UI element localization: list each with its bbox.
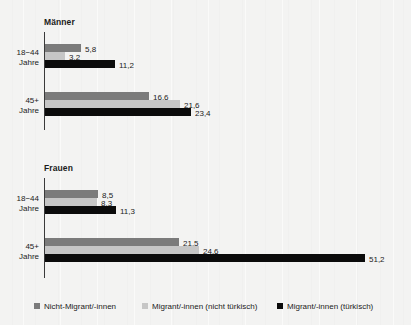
category-label-line2: Jahre [0,106,39,116]
bar-value-frauen-45plus-migrant-tuerkisch: 51,2 [369,256,385,264]
category-label-frauen-45plus: 45+ Jahre [0,242,39,261]
legend-swatch-icon-migrant-tuerkisch [277,303,283,309]
panel-frauen: Frauen 18−44 Jahre 8,5 8,3 11,3 45+ Jahr… [0,150,411,295]
bar-value-maenner-18-44-nicht-migrant: 5,8 [85,46,96,54]
category-label-line2: Jahre [0,252,39,262]
bar-frauen-18-44-nicht-migrant [45,190,98,198]
bar-frauen-18-44-migrant-tuerkisch [45,206,116,214]
bar-value-frauen-18-44-migrant-tuerkisch: 11,3 [120,208,135,216]
chart-figure: Männer 18−44 Jahre 5,8 3,2 11,2 45+ Jahr… [0,0,411,325]
legend-item-migrant-tuerkisch: Migrant/-innen (türkisch) [277,300,373,312]
legend-item-nicht-migrant: Nicht-Migrant/-innen [34,300,116,312]
bar-frauen-45plus-nicht-migrant [45,238,179,246]
category-label-maenner-18-44: 18−44 Jahre [0,48,39,67]
panel-title-frauen: Frauen [44,163,73,173]
bar-maenner-18-44-migrant-nicht-tuerkisch [45,52,65,60]
legend-label-migrant-nicht-tuerkisch: Migrant/-innen (nicht türkisch) [152,302,257,311]
legend-label-nicht-migrant: Nicht-Migrant/-innen [44,302,116,311]
category-label-line2: Jahre [0,58,39,68]
category-label-line1: 45+ [0,96,39,106]
panel-title-maenner: Männer [44,17,75,27]
category-label-line1: 18−44 [0,194,39,204]
bar-maenner-18-44-migrant-tuerkisch [45,60,115,68]
category-label-line1: 45+ [0,242,39,252]
bar-maenner-45plus-migrant-tuerkisch [45,108,191,116]
category-label-line1: 18−44 [0,48,39,58]
legend-item-migrant-nicht-tuerkisch: Migrant/-innen (nicht türkisch) [142,300,257,312]
legend-swatch-icon-nicht-migrant [34,303,40,309]
category-label-frauen-18-44: 18−44 Jahre [0,194,39,213]
bar-frauen-45plus-migrant-tuerkisch [45,254,365,262]
panel-maenner: Männer 18−44 Jahre 5,8 3,2 11,2 45+ Jahr… [0,0,411,150]
chart-legend: Nicht-Migrant/-innen Migrant/-innen (nic… [0,299,411,313]
bar-maenner-45plus-migrant-nicht-tuerkisch [45,100,180,108]
bar-value-maenner-18-44-migrant-tuerkisch: 11,2 [119,62,134,70]
bar-value-maenner-45plus-migrant-tuerkisch: 23,4 [195,110,211,118]
legend-label-migrant-tuerkisch: Migrant/-innen (türkisch) [287,302,373,311]
bar-frauen-18-44-migrant-nicht-tuerkisch [45,198,97,206]
legend-swatch-icon-migrant-nicht-tuerkisch [142,303,148,309]
category-label-line2: Jahre [0,204,39,214]
bar-maenner-18-44-nicht-migrant [45,44,81,52]
bar-maenner-45plus-nicht-migrant [45,92,149,100]
category-label-maenner-45plus: 45+ Jahre [0,96,39,115]
bar-frauen-45plus-migrant-nicht-tuerkisch [45,246,199,254]
